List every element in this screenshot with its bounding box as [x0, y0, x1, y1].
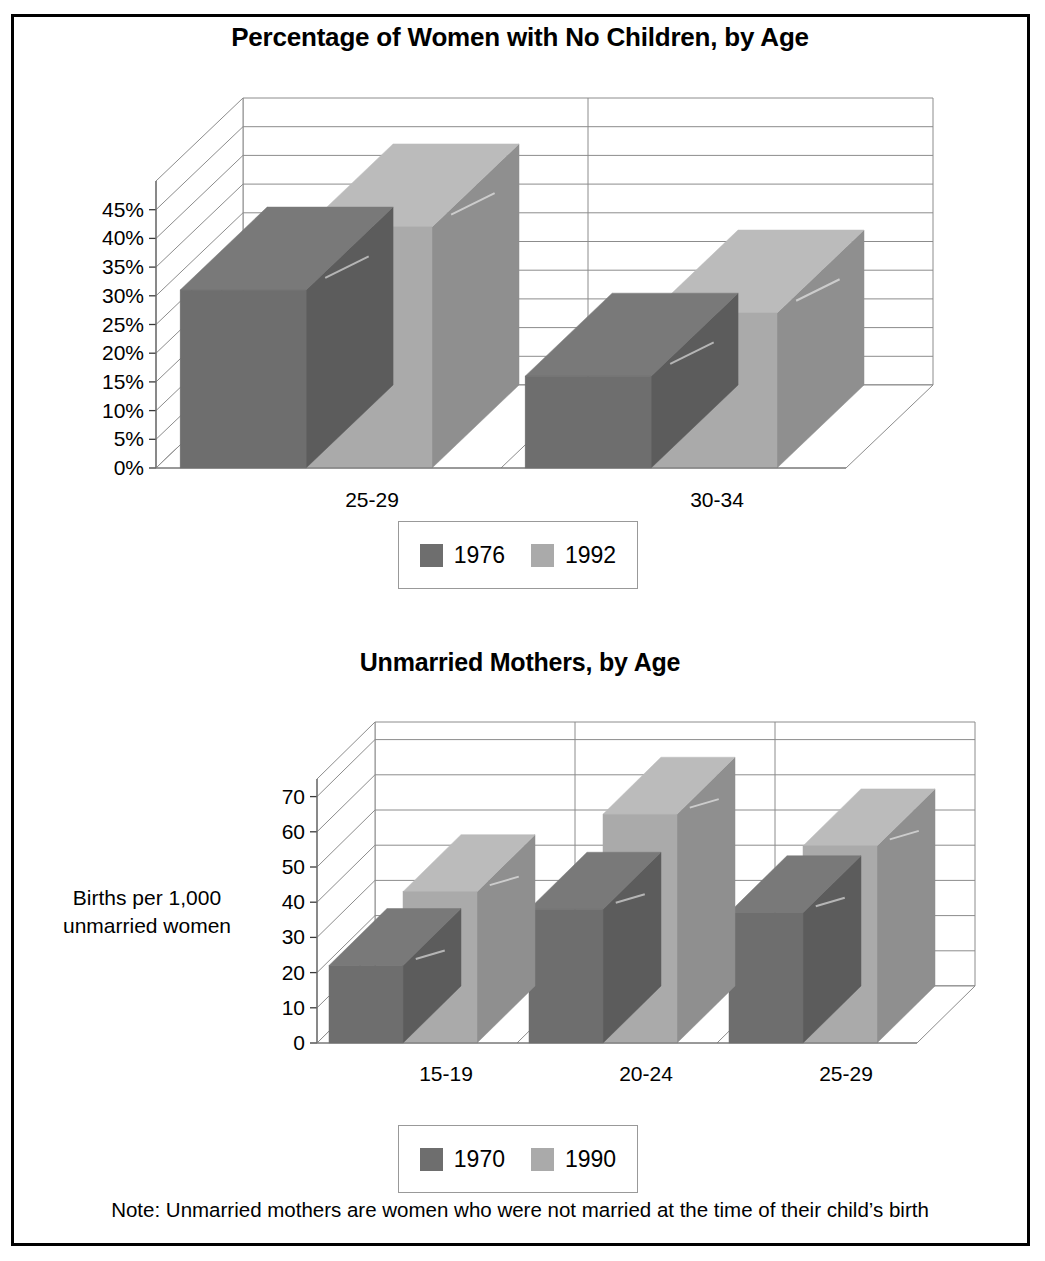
legend-item: 1976 [420, 544, 505, 567]
legend-swatch-1970 [420, 1148, 443, 1171]
x-tick-label: 25-29 [282, 489, 462, 510]
figure-note: Note: Unmarried mothers are women who we… [22, 1198, 1018, 1222]
y-tick-label: 20 [195, 962, 305, 983]
legend-label: 1992 [565, 544, 616, 567]
legend-label: 1970 [454, 1148, 505, 1171]
y-tick-label: 15% [34, 371, 144, 392]
legend-label: 1990 [565, 1148, 616, 1171]
legend-swatch-1992 [531, 544, 554, 567]
y-tick-label: 20% [34, 342, 144, 363]
x-tick-label: 25-29 [756, 1063, 936, 1084]
chart2-title: Unmarried Mothers, by Age [40, 648, 1000, 677]
y-tick-label: 30% [34, 285, 144, 306]
y-tick-label: 0% [34, 457, 144, 478]
x-tick-label: 30-34 [627, 489, 807, 510]
legend-item: 1992 [531, 544, 616, 567]
chart1-svg [60, 78, 980, 488]
y-tick-label: 40 [195, 891, 305, 912]
y-tick-label: 25% [34, 314, 144, 335]
chart1-legend: 19761992 [398, 521, 638, 589]
y-tick-label: 40% [34, 227, 144, 248]
legend-label: 1976 [454, 544, 505, 567]
x-tick-label: 15-19 [356, 1063, 536, 1084]
chart2-svg [265, 715, 995, 1055]
x-tick-label: 20-24 [556, 1063, 736, 1084]
y-tick-label: 60 [195, 821, 305, 842]
legend-swatch-1990 [531, 1148, 554, 1171]
y-tick-label: 10 [195, 997, 305, 1018]
y-tick-label: 10% [34, 400, 144, 421]
y-tick-label: 70 [195, 786, 305, 807]
y-tick-label: 0 [195, 1032, 305, 1053]
legend-swatch-1976 [420, 544, 443, 567]
y-tick-label: 30 [195, 926, 305, 947]
chart2-plot-area [265, 715, 995, 1055]
legend-item: 1970 [420, 1148, 505, 1171]
y-tick-label: 35% [34, 256, 144, 277]
chart1-plot-area [60, 78, 980, 488]
y-tick-label: 5% [34, 428, 144, 449]
chart2-legend: 19701990 [398, 1125, 638, 1193]
chart1-title: Percentage of Women with No Children, by… [40, 22, 1000, 53]
y-tick-label: 50 [195, 856, 305, 877]
legend-item: 1990 [531, 1148, 616, 1171]
y-tick-label: 45% [34, 199, 144, 220]
figure-page: Percentage of Women with No Children, by… [0, 0, 1045, 1261]
